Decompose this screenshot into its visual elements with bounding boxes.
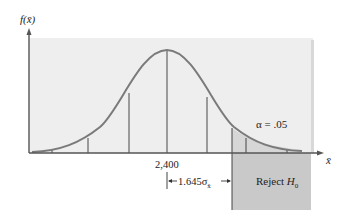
y-axis-arrow-icon (27, 28, 32, 35)
reject-subscript: 0 (295, 182, 299, 190)
panel-shadow (311, 40, 314, 153)
mean-label: 2,400 (155, 160, 179, 171)
critical-distance-text: 1.645σ (178, 176, 207, 187)
chart-background-panel (29, 38, 313, 153)
critical-distance-label: 1.645σx̄ (178, 177, 211, 190)
reject-region-label: Reject H0 (256, 176, 298, 190)
x-axis-arrow-icon (317, 151, 324, 156)
reject-text: Reject H (256, 175, 295, 187)
x-axis-label: x̄ (326, 155, 331, 166)
arrow-left-icon (168, 179, 172, 183)
critical-distance-subscript: x̄ (207, 182, 211, 190)
arrow-right-icon (227, 179, 231, 183)
y-axis-label: f(x̄) (20, 14, 35, 25)
alpha-label: α = .05 (256, 119, 287, 130)
